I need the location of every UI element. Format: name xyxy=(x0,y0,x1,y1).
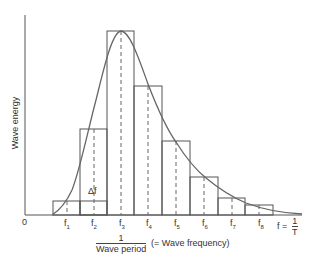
y-axis-label: Wave energy xyxy=(10,88,20,158)
f7-label: f7 xyxy=(230,218,236,230)
f5-label: f5 xyxy=(174,218,180,230)
f4-label: f4 xyxy=(146,218,152,230)
delta-f-label: Δf xyxy=(88,186,97,196)
origin-label: 0 xyxy=(22,217,27,227)
wave-energy-spectrum-diagram xyxy=(0,0,315,266)
histogram-bars xyxy=(53,31,273,215)
x-axis-fraction: 1 Wave period xyxy=(96,233,146,254)
x-axis-suffix: (= Wave frequency) xyxy=(151,238,229,248)
f6-label: f6 xyxy=(202,218,208,230)
f1-label: f1 xyxy=(64,218,70,230)
one-over-t-fraction: 1 T xyxy=(292,216,298,237)
f-equals-label: f = xyxy=(277,221,287,231)
f8-label: f8 xyxy=(258,218,264,230)
f2-label: f2 xyxy=(91,218,97,230)
f3-label: f3 xyxy=(119,218,125,230)
fraction-denominator: Wave period xyxy=(96,244,146,254)
fraction-numerator: 1 xyxy=(96,233,146,244)
bar-f6 xyxy=(190,177,218,215)
